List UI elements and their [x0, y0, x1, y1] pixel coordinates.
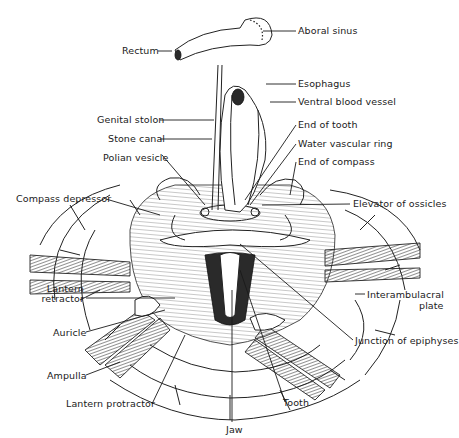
label-genital-stolon: Genital stolon	[97, 114, 164, 125]
label-esophagus: Esophagus	[298, 78, 351, 89]
label-interambulacral-plate-2: plate	[419, 300, 444, 311]
label-lantern-retractor-2: retractor	[38, 293, 84, 304]
label-elevator-of-ossicles: Elevator of ossicles	[353, 198, 447, 209]
label-end-of-tooth: End of tooth	[298, 119, 358, 130]
label-junction-of-epiphyses: Junction of epiphyses	[355, 335, 459, 346]
label-lantern-protractor: Lantern protractor	[66, 398, 155, 409]
label-jaw: Jaw	[226, 424, 243, 435]
label-polian-vesicle: Polian vesicle	[103, 152, 169, 163]
label-end-of-compass: End of compass	[298, 156, 375, 167]
label-rectum: Rectum	[122, 45, 159, 56]
label-auricle: Auricle	[53, 327, 86, 338]
label-stone-canal: Stone canal	[108, 133, 165, 144]
label-tooth: Tooth	[283, 397, 309, 408]
label-ampulla: Ampulla	[47, 370, 87, 381]
label-aboral-sinus: Aboral sinus	[298, 25, 358, 36]
label-ventral-blood-vessel: Ventral blood vessel	[298, 96, 396, 107]
rectum	[175, 18, 272, 60]
label-interambulacral-plate-1: Interambulacral	[367, 289, 444, 300]
label-water-vascular-ring: Water vascular ring	[298, 138, 393, 149]
label-compass-depressor: Compass depressor	[16, 193, 111, 204]
